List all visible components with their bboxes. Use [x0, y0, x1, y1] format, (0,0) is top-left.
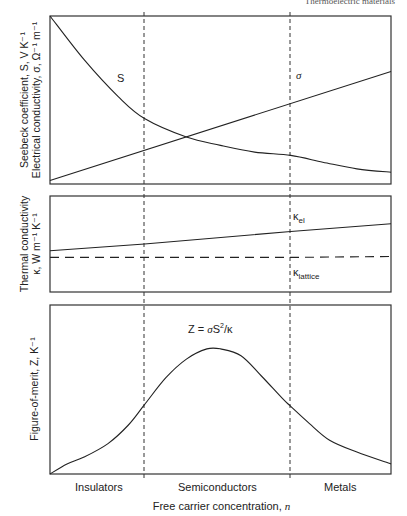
figure-of-merit-axis-label: Figure-of-merit, Z, K⁻¹: [28, 309, 40, 469]
middle-panel-frame: [50, 196, 391, 292]
formula-S: S: [213, 323, 220, 335]
figure-canvas: [0, 0, 407, 516]
top-panel-frame: [50, 16, 391, 184]
seebeck-curve: [50, 16, 391, 172]
seebeck-axis-label: Seebeck coefficient, S, V K⁻¹: [18, 0, 30, 200]
conductivity-curve: [50, 71, 391, 180]
conductivity-label: σ: [296, 69, 301, 81]
kappa-electronic-curve: [50, 224, 391, 251]
conductivity-axis-label: Electrical conductivity, σ, Ω⁻¹ m⁻¹: [30, 0, 42, 200]
region-insulators: Insulators: [75, 481, 123, 493]
kappa-lattice-subscript: lattice: [299, 272, 320, 281]
figure-of-merit-curve: [50, 348, 391, 474]
bottom-panel-ylabel: Figure-of-merit, Z, K⁻¹: [28, 309, 40, 469]
middle-panel-ylabel: Thermal conductivity κ, W m⁻¹ K⁻¹: [18, 184, 42, 304]
top-panel-ylabel: Seebeck coefficient, S, V K⁻¹ Electrical…: [18, 0, 42, 200]
thermal-conductivity-axis-label: Thermal conductivity: [18, 184, 30, 304]
kappa-lattice-curve: [50, 257, 391, 258]
figure-of-merit-formula: Z = σS2/κ: [188, 322, 233, 335]
thermal-conductivity-unit-label: κ, W m⁻¹ K⁻¹: [30, 184, 42, 304]
x-axis-label-text: Free carrier concentration, n: [153, 500, 291, 512]
region-semiconductors: Semiconductors: [178, 481, 257, 493]
formula-suffix: /κ: [224, 323, 233, 335]
sigma-symbol: σ: [296, 69, 301, 81]
seebeck-label: S: [117, 72, 124, 84]
formula-prefix: Z =: [188, 323, 207, 335]
kappa-el-subscript: el: [299, 216, 305, 225]
kappa-el-label: κel: [293, 210, 305, 225]
x-axis-variable: n: [285, 500, 291, 512]
x-axis-label: Free carrier concentration, n: [0, 500, 407, 512]
region-metals: Metals: [324, 481, 356, 493]
kappa-lattice-label: κlattice: [293, 266, 319, 281]
